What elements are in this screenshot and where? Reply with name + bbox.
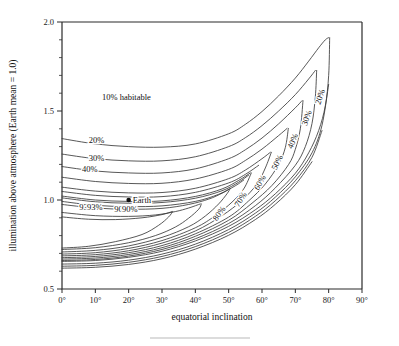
x-tick-label: 90° [356,295,368,305]
x-tick-label: 60° [256,295,268,305]
x-tick-label: 80° [323,295,335,305]
annotation-left-30pct: 30% [89,153,105,163]
x-tick-label: 0° [58,295,66,305]
contour-curve-lower-50pct [62,128,288,257]
annotation-90pct: 90% [122,204,138,214]
contour-label-70pct: 70% [232,190,249,209]
annotation-10pct-habitable: 10% habitable [102,92,151,102]
x-tick-label: 20° [123,295,135,305]
y-tick-label: 2.0 [43,17,54,27]
y-tick-label: 0.5 [43,284,54,294]
x-tick-label: 10° [89,295,101,305]
x-tick-label: 40° [189,295,201,305]
x-axis-title: equatorial inclination [172,312,253,322]
footer-rule [0,332,399,344]
contour-label-20pct: 20% [313,88,327,106]
contour-curve [62,131,322,267]
x-tick-label: 50° [223,295,235,305]
annotation-left-40pct: 40% [82,164,98,174]
contour-curve-upper-30pct [62,70,315,161]
x-tick-label: 30° [156,295,168,305]
earth-marker-label: Earth [133,195,152,205]
illumination-vs-inclination-chart: 0°10°20°30°40°50°60°70°80°90°0.51.01.52.… [0,0,399,346]
y-tick-label: 1.5 [43,106,54,116]
axes-group: 0°10°20°30°40°50°60°70°80°90°0.51.01.52.… [8,17,368,322]
contour-label-80pct: 80% [210,204,227,222]
x-tick-label: 70° [289,295,301,305]
annotations-group: 10% habitable20%30%40%93%90%Earth [82,92,152,214]
annotation-left-20pct: 20% [89,135,105,145]
y-tick-label: 1.0 [43,195,54,205]
earth-marker-dot [126,198,131,203]
figure-container: 0°10°20°30°40°50°60°70°80°90°0.51.01.52.… [0,0,399,346]
y-axis-title: illumination above atmosphere (Earth mea… [8,60,19,252]
annotation-93pct: 93% [87,202,103,212]
contour-label-60pct: 60% [252,173,268,192]
